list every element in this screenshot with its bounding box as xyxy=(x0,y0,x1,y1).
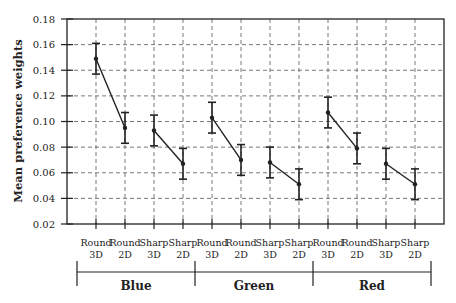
x-category-label-line1: Sharp xyxy=(169,237,198,248)
x-category-label-line2: 2D xyxy=(234,249,248,260)
y-tick-label: 0.06 xyxy=(33,167,55,178)
y-axis-title: Mean preference weights xyxy=(11,39,25,202)
x-category-label-line1: Sharp xyxy=(401,237,430,248)
x-category-label-line1: Sharp xyxy=(285,237,314,248)
series-line xyxy=(270,163,299,185)
series-line xyxy=(386,164,415,185)
y-tick-label: 0.12 xyxy=(33,90,55,101)
group-label: Blue xyxy=(120,279,151,293)
x-category-label-line1: Round xyxy=(312,237,343,248)
series-line xyxy=(96,59,125,128)
x-category-label-line1: Round xyxy=(196,237,227,248)
x-category-label-line1: Round xyxy=(80,237,111,248)
x-category-label-line2: 3D xyxy=(205,249,219,260)
data-point xyxy=(123,126,127,130)
x-category-label-line2: 3D xyxy=(321,249,335,260)
y-tick-label: 0.10 xyxy=(33,116,55,127)
x-category-label-line1: Sharp xyxy=(372,237,401,248)
y-tick-label: 0.18 xyxy=(33,14,55,25)
x-category-label-line1: Sharp xyxy=(256,237,285,248)
y-tick-label: 0.14 xyxy=(33,65,55,76)
y-tick-label: 0.16 xyxy=(33,39,55,50)
x-category-label-line2: 2D xyxy=(408,249,422,260)
x-category-label-line2: 3D xyxy=(263,249,277,260)
data-point xyxy=(413,182,417,186)
x-category-label-line2: 2D xyxy=(292,249,306,260)
group-label: Red xyxy=(359,279,386,293)
data-point xyxy=(268,160,272,164)
x-category-label-line2: 2D xyxy=(118,249,132,260)
x-category-label-line2: 3D xyxy=(379,249,393,260)
x-category-label-line2: 2D xyxy=(350,249,364,260)
x-category-label-line2: 3D xyxy=(147,249,161,260)
series-line xyxy=(212,118,241,160)
x-category-label-line1: Sharp xyxy=(140,237,169,248)
data-point xyxy=(181,162,185,166)
x-category-label-line1: Round xyxy=(341,237,372,248)
x-category-label-line2: 3D xyxy=(89,249,103,260)
x-category-label-line1: Round xyxy=(109,237,140,248)
y-tick-label: 0.02 xyxy=(33,219,55,230)
data-point xyxy=(326,110,330,114)
group-brackets: BlueGreenRed xyxy=(77,261,431,293)
data-point xyxy=(297,182,301,186)
data-point xyxy=(384,162,388,166)
line-chart: 0.020.040.060.080.100.120.140.160.18 Rou… xyxy=(0,0,456,303)
x-category-label-line1: Round xyxy=(225,237,256,248)
x-category-label-line2: 2D xyxy=(176,249,190,260)
y-tick-label: 0.08 xyxy=(33,142,55,153)
group-label: Green xyxy=(234,279,275,293)
y-tick-label: 0.04 xyxy=(33,193,55,204)
data-point xyxy=(355,146,359,150)
series-line xyxy=(328,113,357,149)
x-axis: Round3DRound2DSharp3DSharp2DRound3DRound… xyxy=(80,219,429,260)
data-point xyxy=(210,115,214,119)
grid-lines xyxy=(67,19,444,224)
data-point xyxy=(239,158,243,162)
data-point xyxy=(152,128,156,132)
data-point xyxy=(94,57,98,61)
